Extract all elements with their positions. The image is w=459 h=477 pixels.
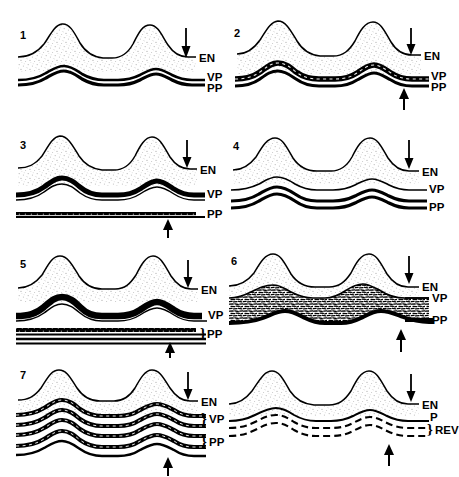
label-pp: PP <box>207 209 222 221</box>
figure-root: 1 EN VP PP 2 EN VP <box>0 0 459 477</box>
rev-dashed-lines <box>229 415 429 436</box>
vp-brace: } <box>201 411 207 426</box>
down-arrow-icon <box>184 372 193 400</box>
down-arrow-icon <box>405 140 414 169</box>
pp-brace: } <box>200 326 206 341</box>
panel-7-drawing <box>0 358 229 477</box>
en-layer <box>18 256 198 302</box>
label-pp: PP <box>432 315 447 327</box>
down-arrow-icon <box>183 140 192 168</box>
label-pp: PP <box>429 202 444 214</box>
panel-8-drawing <box>229 358 459 477</box>
up-arrow-icon <box>163 457 173 476</box>
label-vp: VP <box>432 293 447 305</box>
panel-number: 5 <box>20 259 26 270</box>
label-vp: VP <box>208 310 223 322</box>
rev-brace: } <box>427 422 433 437</box>
panel-number: 2 <box>234 28 240 39</box>
up-arrow-icon <box>163 219 173 238</box>
label-en: EN <box>424 51 440 63</box>
label-pp: PP <box>431 82 446 94</box>
panel-3-drawing <box>0 118 229 240</box>
label-pp: PP <box>207 83 222 95</box>
panel-2: 2 EN VP PP <box>229 0 459 118</box>
up-arrow-icon <box>396 329 406 352</box>
panel-number: 6 <box>231 256 237 267</box>
label-en: EN <box>422 167 438 179</box>
down-arrow-icon <box>405 256 414 284</box>
label-en: EN <box>201 285 217 297</box>
label-en: EN <box>199 53 215 65</box>
label-pp: PP <box>207 329 222 341</box>
panel-8: EN P } REV <box>229 358 459 477</box>
panel-number: 3 <box>20 140 26 151</box>
panel-1-drawing <box>0 0 229 118</box>
pp-flat-stack <box>16 328 206 344</box>
label-vp: VP <box>209 414 224 426</box>
panel-3: 3 EN VP PP <box>0 118 229 240</box>
up-arrow-icon <box>399 88 409 110</box>
down-arrow-icon <box>407 374 416 402</box>
panel-number: 1 <box>20 30 26 41</box>
pp-flat-line <box>16 212 205 217</box>
panel-6: 6 EN VP PP <box>229 240 459 358</box>
panel-6-drawing <box>229 240 459 358</box>
panel-4: 4 EN VP PP <box>229 118 459 240</box>
panel-4-drawing <box>229 118 459 240</box>
panel-number: 4 <box>233 141 239 152</box>
panel-1: 1 EN VP PP <box>0 0 229 118</box>
down-arrow-icon <box>182 28 191 58</box>
down-arrow-icon <box>184 260 193 288</box>
panel-5: 5 EN VP } PP <box>0 240 229 358</box>
label-pp: PP <box>209 437 224 449</box>
panel-number: 7 <box>20 370 26 381</box>
en-layer <box>18 136 197 186</box>
up-arrow-icon <box>384 444 394 466</box>
label-en: EN <box>201 397 217 409</box>
down-arrow-icon <box>407 28 416 55</box>
en-layer <box>229 371 419 416</box>
panel-5-drawing <box>0 240 229 358</box>
panel-7: 7 EN } VP } PP <box>0 358 229 477</box>
label-vp: VP <box>429 184 444 196</box>
label-rev: REV <box>435 425 459 437</box>
label-en: EN <box>200 165 216 177</box>
label-vp: VP <box>207 189 222 201</box>
pp-brace: } <box>201 434 207 449</box>
en-layer <box>233 138 419 184</box>
en-layer <box>18 24 196 72</box>
